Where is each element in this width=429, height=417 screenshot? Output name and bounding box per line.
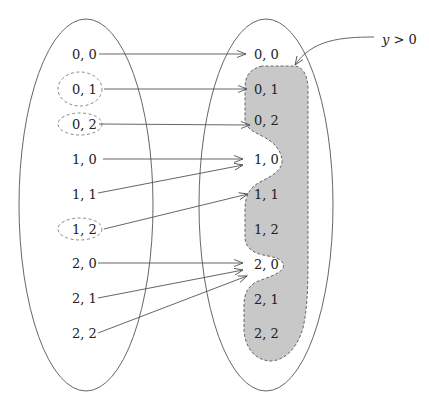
domain-element: 0, 2 bbox=[72, 117, 97, 132]
arrow-11-to-10 bbox=[98, 165, 243, 193]
codomain-element: 1, 0 bbox=[254, 152, 279, 167]
codomain-element: 2, 1 bbox=[254, 292, 279, 307]
codomain-element: 2, 0 bbox=[254, 257, 279, 272]
arrow-12-to-11 bbox=[104, 194, 248, 229]
domain-element: 1, 1 bbox=[72, 187, 97, 202]
domain-element: 0, 0 bbox=[72, 47, 97, 62]
domain-element: 2, 2 bbox=[72, 326, 97, 341]
predicate-region bbox=[244, 66, 308, 361]
domain-element: 0, 1 bbox=[72, 82, 97, 97]
codomain-labels: 0, 0 0, 1 0, 2 1, 0 1, 1 1, 2 2, 0 2, 1 … bbox=[254, 47, 279, 341]
domain-labels: 0, 0 0, 1 0, 2 1, 0 1, 1 1, 2 2, 0 2, 1 … bbox=[72, 47, 97, 341]
codomain-element: 2, 2 bbox=[254, 326, 279, 341]
mapping-arrows bbox=[98, 54, 250, 333]
domain-element: 1, 2 bbox=[72, 222, 97, 237]
mapping-diagram: y > 0 0, 0 0, 1 0, 2 1, 0 1, 1 1, 2 2, 0… bbox=[0, 0, 429, 417]
codomain-element: 0, 1 bbox=[254, 82, 279, 97]
domain-element: 1, 0 bbox=[72, 152, 97, 167]
arrow-02-to-02 bbox=[99, 124, 250, 125]
predicate-label: y > 0 bbox=[381, 32, 417, 47]
codomain-element: 1, 2 bbox=[254, 222, 279, 237]
domain-element: 2, 1 bbox=[72, 291, 97, 306]
arrow-22-to-20 bbox=[98, 276, 247, 333]
domain-element: 2, 0 bbox=[72, 256, 97, 271]
codomain-element: 0, 0 bbox=[254, 47, 279, 62]
codomain-element: 0, 2 bbox=[254, 113, 279, 128]
predicate-pointer-arrow bbox=[295, 37, 374, 65]
arrow-21-to-20 bbox=[98, 270, 243, 298]
codomain-element: 1, 1 bbox=[254, 187, 279, 202]
